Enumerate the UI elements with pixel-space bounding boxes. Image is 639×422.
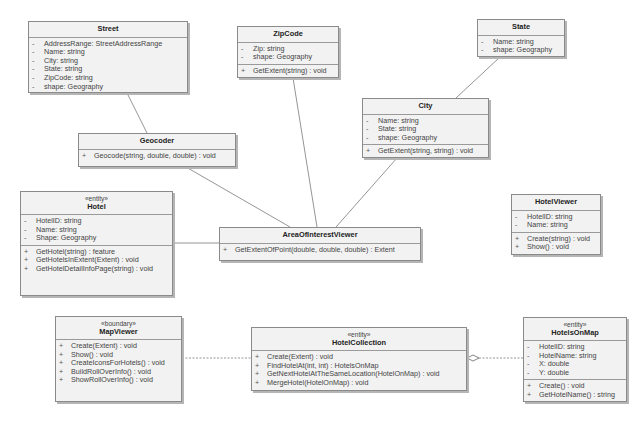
operations-section: +Create(string) : void +Show() : void: [512, 233, 600, 254]
attribute-row: -Y: double: [527, 369, 623, 378]
class-zipcode[interactable]: ZipCode -Zip: string -shape: Geography +…: [237, 26, 339, 78]
attribute-text: Name: string: [527, 221, 597, 230]
class-header: AreaOfInterestViewer: [220, 228, 420, 244]
link-zipcode-aoiviewer: [293, 78, 317, 227]
class-name: City: [365, 102, 486, 111]
class-name: MapViewer: [58, 328, 179, 337]
operation-text: Geocode(string, double, double) : void: [94, 152, 232, 161]
visibility-marker: +: [527, 391, 539, 400]
attributes-section: -HotelID: string -Name: string -Shape: G…: [21, 215, 172, 246]
operation-text: GetExtentOfPoint(double, double, double)…: [235, 246, 417, 255]
attribute-text: shape: Geography: [44, 83, 184, 92]
attribute-text: Y: double: [539, 369, 623, 378]
attributes-section: -HotelID: string -Name: string: [512, 211, 600, 233]
operations-section: +Create(Extent) : void +Show() : void +C…: [56, 340, 181, 387]
class-header: «entity» HotelCollection: [252, 328, 466, 351]
class-header: HotelViewer: [512, 195, 600, 211]
class-header: State: [478, 20, 564, 36]
link-geocoder-aoiviewer: [186, 167, 290, 227]
attribute-row: -shape: Geography: [32, 83, 184, 92]
operations-section: +GetExtent(string, string) : void: [363, 145, 488, 158]
class-state[interactable]: State -Name: string -shape: Geography: [477, 19, 565, 57]
class-name: HotelViewer: [514, 198, 598, 207]
operation-text: GetHotelName() : string: [539, 391, 623, 400]
attributes-section: -Name: string -State: string -shape: Geo…: [363, 115, 488, 146]
visibility-marker: +: [82, 152, 94, 161]
operation-text: GetExtent(string) : void: [253, 67, 335, 76]
class-street[interactable]: Street -AddressRange: StreetAddressRange…: [28, 21, 188, 93]
operation-text: GetExtent(string, string) : void: [378, 147, 485, 156]
class-header: «entity» Hotel: [21, 192, 172, 215]
visibility-marker: +: [255, 379, 267, 388]
attribute-text: shape: Geography: [493, 46, 561, 55]
class-header: «boundary» MapViewer: [56, 317, 181, 340]
operation-row: +GetHotelDetailInfoPage(string) : void: [24, 265, 169, 274]
operation-text: GetHotelDetailInfoPage(string) : void: [36, 265, 169, 274]
class-area-of-interest-viewer[interactable]: AreaOfInterestViewer +GetExtentOfPoint(d…: [219, 227, 421, 261]
class-name: HotelCollection: [254, 339, 464, 348]
operations-section: +Geocode(string, double, double) : void: [79, 150, 235, 163]
class-hotel[interactable]: «entity» Hotel -HotelID: string -Name: s…: [20, 191, 173, 296]
operation-text: Show() : void: [527, 243, 597, 252]
visibility-marker: -: [481, 46, 493, 55]
operation-row: +GetExtent(string) : void: [241, 67, 335, 76]
attribute-row: -shape: Geography: [366, 134, 485, 143]
operation-row: +ShowRollOverInfo() : void: [59, 376, 178, 385]
class-name: Hotel: [23, 203, 170, 212]
class-hotel-viewer[interactable]: HotelViewer -HotelID: string -Name: stri…: [511, 194, 601, 255]
class-city[interactable]: City -Name: string -State: string -shape…: [362, 98, 489, 158]
class-header: «entity» HotelsOnMap: [524, 318, 626, 341]
class-header: Street: [29, 22, 187, 38]
visibility-marker: -: [24, 234, 36, 243]
attribute-row: -Name: string: [515, 221, 597, 230]
attribute-text: shape: Geography: [253, 53, 335, 62]
class-name: HotelsOnMap: [526, 329, 624, 338]
class-name: ZipCode: [240, 30, 336, 39]
link-city-aoiviewer: [336, 158, 397, 227]
class-name: State: [480, 23, 562, 32]
operation-text: ShowRollOverInfo() : void: [71, 376, 178, 385]
class-name: Geocoder: [81, 137, 233, 146]
operation-row: +Geocode(string, double, double) : void: [82, 152, 232, 161]
class-header: Geocoder: [79, 134, 235, 150]
visibility-marker: +: [223, 246, 235, 255]
attribute-row: -shape: Geography: [241, 53, 335, 62]
visibility-marker: -: [527, 369, 539, 378]
operation-row: +MergeHotel(HotelOnMap) : void: [255, 379, 463, 388]
attribute-text: Shape: Geography: [36, 234, 169, 243]
attribute-row: -Shape: Geography: [24, 234, 169, 243]
operation-text: MergeHotel(HotelOnMap) : void: [267, 379, 463, 388]
class-header: City: [363, 99, 488, 115]
visibility-marker: -: [366, 134, 378, 143]
visibility-marker: -: [515, 221, 527, 230]
class-geocoder[interactable]: Geocoder +Geocode(string, double, double…: [78, 133, 236, 167]
visibility-marker: +: [366, 147, 378, 156]
attributes-section: -AddressRange: StreetAddressRange -Name:…: [29, 38, 187, 94]
operation-row: +GetExtentOfPoint(double, double, double…: [223, 246, 417, 255]
aggregation-diamond-icon: [467, 355, 479, 361]
operations-section: +GetHotel(string) : feature +GetHotelsIn…: [21, 246, 172, 276]
class-name: Street: [31, 25, 185, 34]
operations-section: +Create() : void +GetHotelName() : strin…: [524, 380, 626, 401]
visibility-marker: +: [24, 265, 36, 274]
operation-row: +Show() : void: [515, 243, 597, 252]
attributes-section: -Zip: string -shape: Geography: [238, 43, 338, 65]
class-name: AreaOfInterestViewer: [222, 231, 418, 240]
attributes-section: -HotelID: string -HotelName: string -X: …: [524, 341, 626, 380]
class-hotels-on-map[interactable]: «entity» HotelsOnMap -HotelID: string -H…: [523, 317, 627, 402]
attribute-text: shape: Geography: [378, 134, 485, 143]
class-map-viewer[interactable]: «boundary» MapViewer +Create(Extent) : v…: [55, 316, 182, 402]
visibility-marker: -: [32, 83, 44, 92]
attribute-row: -shape: Geography: [481, 46, 561, 55]
operations-section: +GetExtentOfPoint(double, double, double…: [220, 244, 420, 257]
class-hotel-collection[interactable]: «entity» HotelCollection +Create(Extent)…: [251, 327, 467, 391]
operation-row: +GetHotelName() : string: [527, 391, 623, 400]
operations-section: +Create(Extent) : void +FindHotelAt(int,…: [252, 351, 466, 389]
link-street-geocoder: [127, 93, 147, 133]
visibility-marker: -: [241, 53, 253, 62]
operations-section: +GetExtent(string) : void: [238, 65, 338, 78]
operation-row: +GetExtent(string, string) : void: [366, 147, 485, 156]
attributes-section: -Name: string -shape: Geography: [478, 36, 564, 57]
class-header: ZipCode: [238, 27, 338, 43]
visibility-marker: +: [515, 243, 527, 252]
